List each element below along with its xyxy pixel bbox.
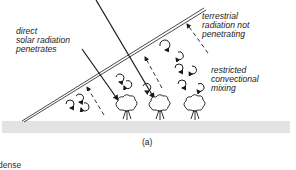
figure-caption: (a) (142, 137, 152, 147)
glass-cover (22, 8, 206, 122)
plant-2 (149, 95, 170, 120)
convection-label-line-3: mixing (211, 84, 259, 93)
solar-radiation-label: direct solar radiation penetrates (16, 27, 70, 54)
cutoff-text: dense (0, 160, 21, 170)
solar-label-line-3: penetrates (16, 45, 70, 54)
terrestrial-label-line-3: penetrating (202, 30, 249, 39)
ground-bar (2, 121, 290, 133)
plant-3 (184, 95, 205, 120)
plants (116, 95, 205, 120)
terrestrial-radiation-label: terrestrial radiation not penetrating (202, 12, 249, 39)
plant-1 (116, 95, 137, 120)
convection-label: restricted convectional mixing (211, 66, 259, 93)
